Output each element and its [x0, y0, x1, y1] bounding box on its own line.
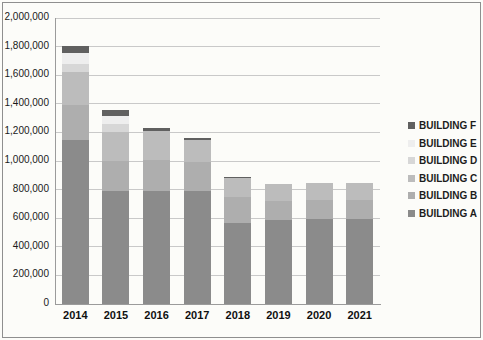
bar-segment-building-c — [143, 131, 170, 160]
legend-item-building-d: BUILDING D — [408, 152, 480, 170]
legend-label: BUILDING C — [419, 173, 477, 184]
legend-item-building-f: BUILDING F — [408, 117, 480, 135]
bar-segment-building-a — [306, 219, 333, 304]
stacked-bar-2018 — [224, 18, 251, 304]
y-tick-label: 1,400,000 — [3, 97, 49, 108]
bar-segment-building-c — [102, 132, 129, 161]
plot-area — [55, 18, 380, 304]
y-tick-label: 2,000,000 — [3, 11, 49, 22]
y-tick-label: 600,000 — [3, 211, 49, 222]
bar-segment-building-c — [306, 183, 333, 200]
legend-swatch-icon — [408, 192, 415, 199]
stacked-bar-2014 — [62, 18, 89, 304]
bar-segment-building-a — [346, 219, 373, 304]
stacked-bar-2021 — [346, 18, 373, 304]
x-tick-label-2020: 2020 — [299, 309, 340, 321]
bar-segment-building-a — [102, 191, 129, 304]
bar-segment-building-c — [62, 72, 89, 105]
bar-segment-building-a — [62, 140, 89, 304]
bar-segment-building-e — [102, 116, 129, 124]
legend-label: BUILDING F — [419, 120, 476, 131]
legend-label: BUILDING D — [419, 155, 477, 166]
x-tick-label-2019: 2019 — [258, 309, 299, 321]
y-tick-label: 800,000 — [3, 183, 49, 194]
bar-segment-building-d — [62, 64, 89, 73]
bar-segment-building-f — [184, 138, 211, 140]
bar-segment-building-b — [224, 197, 251, 222]
bar-segment-building-b — [102, 161, 129, 191]
legend-swatch-icon — [408, 122, 415, 129]
legend-label: BUILDING B — [419, 190, 477, 201]
bar-segment-building-f — [62, 46, 89, 53]
bar-segment-building-e — [62, 53, 89, 64]
legend-swatch-icon — [408, 210, 415, 217]
bar-segment-building-f — [224, 177, 251, 178]
bar-segment-building-b — [143, 160, 170, 191]
x-tick-label-2017: 2017 — [177, 309, 218, 321]
bar-segment-building-d — [102, 124, 129, 133]
legend-label: BUILDING E — [419, 138, 477, 149]
legend-item-building-a: BUILDING A — [408, 205, 480, 223]
x-tick-label-2016: 2016 — [136, 309, 177, 321]
stacked-bar-2017 — [184, 18, 211, 304]
x-tick-label-2021: 2021 — [339, 309, 380, 321]
stacked-bar-2015 — [102, 18, 129, 304]
legend-swatch-icon — [408, 175, 415, 182]
bar-segment-building-c — [265, 184, 292, 201]
bar-segment-building-b — [62, 105, 89, 139]
x-tick-label-2014: 2014 — [55, 309, 96, 321]
bar-segment-building-c — [346, 183, 373, 200]
bar-segment-building-a — [265, 220, 292, 304]
bar-segment-building-c — [184, 140, 211, 162]
stacked-bar-2016 — [143, 18, 170, 304]
legend-label: BUILDING A — [419, 208, 477, 219]
bar-segment-building-f — [102, 110, 129, 116]
legend-item-building-b: BUILDING B — [408, 187, 480, 205]
bar-segment-building-f — [143, 128, 170, 131]
stacked-bar-2020 — [306, 18, 333, 304]
y-tick-label: 1,800,000 — [3, 40, 49, 51]
y-tick-label: 1,200,000 — [3, 125, 49, 136]
bar-segment-building-b — [265, 201, 292, 220]
legend-swatch-icon — [408, 157, 415, 164]
bar-segment-building-c — [224, 178, 251, 197]
legend-item-building-c: BUILDING C — [408, 170, 480, 188]
chart-canvas: 0200,000400,000600,000800,0001,000,0001,… — [0, 0, 483, 340]
x-axis-line — [55, 304, 381, 305]
x-tick-label-2015: 2015 — [96, 309, 137, 321]
y-tick-label: 400,000 — [3, 240, 49, 251]
bar-segment-building-a — [224, 223, 251, 305]
y-tick-label: 1,000,000 — [3, 154, 49, 165]
x-tick-label-2018: 2018 — [218, 309, 259, 321]
y-tick-label: 1,600,000 — [3, 68, 49, 79]
bar-segment-building-a — [184, 191, 211, 304]
legend-swatch-icon — [408, 140, 415, 147]
chart-frame: 0200,000400,000600,000800,0001,000,0001,… — [2, 2, 481, 338]
y-axis-line — [55, 18, 56, 305]
legend-item-building-e: BUILDING E — [408, 135, 480, 153]
y-tick-label: 200,000 — [3, 268, 49, 279]
stacked-bar-2019 — [265, 18, 292, 304]
bar-segment-building-a — [143, 191, 170, 304]
bar-segment-building-b — [184, 162, 211, 191]
bar-segment-building-b — [306, 200, 333, 219]
legend: BUILDING FBUILDING EBUILDING DBUILDING C… — [408, 117, 480, 222]
y-tick-label: 0 — [3, 297, 49, 308]
bar-segment-building-b — [346, 200, 373, 219]
